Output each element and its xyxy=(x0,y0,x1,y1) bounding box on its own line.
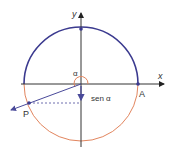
point-top xyxy=(79,27,83,31)
x-axis-label: x xyxy=(157,71,163,81)
angle-label: α xyxy=(73,69,78,78)
unit-circle-diagram: y x α A P sen α xyxy=(0,0,173,148)
point-p-label: P xyxy=(23,109,29,119)
sine-label: sen α xyxy=(91,94,111,103)
point-a xyxy=(136,82,140,86)
point-a-label: A xyxy=(139,89,145,99)
vector-op xyxy=(11,84,81,110)
point-p xyxy=(27,101,31,105)
y-axis-label: y xyxy=(71,9,77,19)
